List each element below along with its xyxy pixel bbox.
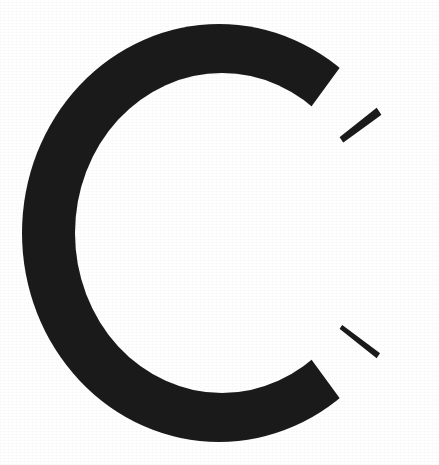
letter-c-body bbox=[0, 0, 439, 465]
letter-c-glyph bbox=[0, 0, 439, 465]
image-canvas: C bbox=[0, 0, 439, 465]
glyph-ink bbox=[0, 0, 439, 465]
